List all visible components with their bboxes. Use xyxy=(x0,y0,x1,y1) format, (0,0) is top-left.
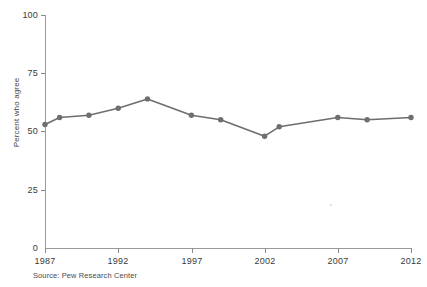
series-plot-area xyxy=(0,0,427,287)
data-point-1988 xyxy=(57,115,62,120)
data-point-1992 xyxy=(116,106,121,111)
data-point-1999 xyxy=(218,117,223,122)
data-point-1987 xyxy=(42,122,47,127)
data-point-1997 xyxy=(189,113,194,118)
print-speck xyxy=(330,204,332,206)
data-point-2002 xyxy=(262,134,267,139)
data-point-2003 xyxy=(277,124,282,129)
series-markers xyxy=(42,96,413,139)
data-point-2007 xyxy=(335,115,340,120)
series-line-percent-who-agree xyxy=(45,99,411,136)
data-point-1990 xyxy=(86,113,91,118)
data-point-2009 xyxy=(364,117,369,122)
line-chart: Percent who agree 100 75 50 25 0 1987 19… xyxy=(0,0,427,287)
source-note: Source: Pew Research Center xyxy=(33,271,137,280)
data-point-1994 xyxy=(145,96,150,101)
data-point-2012 xyxy=(408,115,413,120)
